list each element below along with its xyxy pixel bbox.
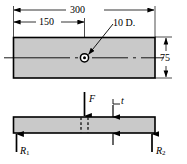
dimension-label-75: 75 [160, 53, 170, 63]
reaction-label-R2-sub: 2 [162, 149, 166, 157]
force-label-F: F [89, 94, 95, 104]
hole-symbol [80, 54, 88, 62]
reaction-label-R2: R2 [156, 146, 166, 157]
reaction-label-R1-sub: 1 [26, 149, 30, 157]
figure-canvas: 300 150 75 10 D. F t R1 R2 [0, 0, 187, 164]
dimension-label-300: 300 [70, 5, 85, 15]
drawing-vector-layer [0, 0, 187, 164]
dimension-label-150: 150 [39, 17, 54, 27]
beam-elevation-body [14, 117, 156, 133]
thickness-callout-leader [113, 99, 120, 104]
reaction-label-R1: R1 [20, 146, 30, 157]
hole-callout-label: 10 D. [113, 18, 135, 28]
thickness-label-t: t [121, 96, 124, 106]
